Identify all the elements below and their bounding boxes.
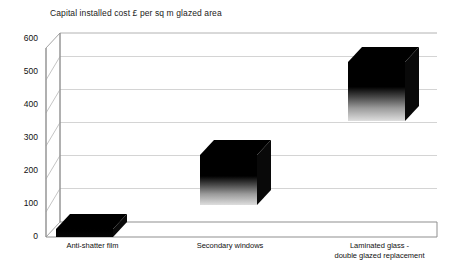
x-category-label-laminated-glass: Laminated glass - double glazed replacem… — [310, 241, 449, 261]
bar-front-face — [200, 155, 257, 205]
chart-svg — [0, 0, 449, 275]
y-tick-label-100: 100 — [8, 199, 38, 208]
y-tick-label-600: 600 — [8, 34, 38, 43]
y-tick-label-500: 500 — [8, 67, 38, 76]
x-category-label-anti-shatter-film: Anti-shatter film — [30, 241, 155, 251]
x-category-label-secondary-windows: Secondary windows — [165, 241, 295, 251]
y-tick-label-0: 0 — [8, 232, 38, 241]
chart-page: Capital installed cost £ per sq m glazed… — [0, 0, 449, 275]
bar-secondary-windows[interactable] — [200, 140, 271, 205]
bar-laminated-glass[interactable] — [348, 47, 419, 121]
y-tick-label-300: 300 — [8, 133, 38, 142]
y-tick-label-400: 400 — [8, 100, 38, 109]
y-tick-label-200: 200 — [8, 166, 38, 175]
plot-area: 600 500 400 300 200 100 0 Anti-shatter f… — [0, 0, 449, 275]
bar-front-face — [56, 229, 113, 237]
bar-front-face — [348, 62, 405, 121]
